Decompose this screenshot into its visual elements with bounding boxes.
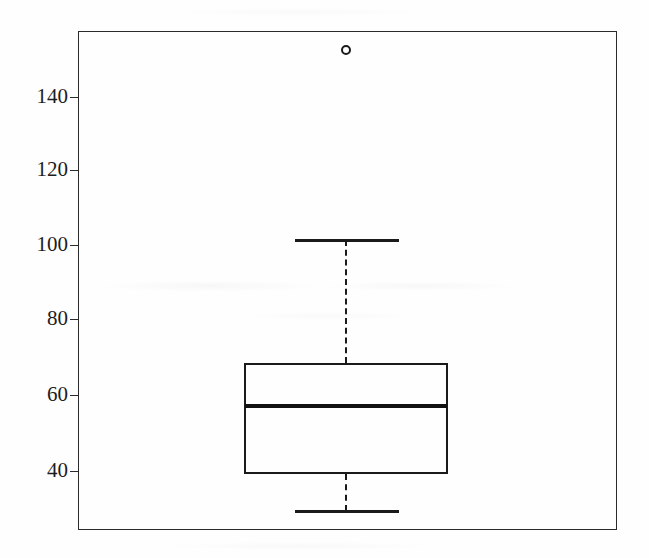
upper-whisker-cap bbox=[295, 239, 399, 242]
y-tick-mark-60 bbox=[70, 395, 78, 396]
lower-whisker-cap bbox=[295, 510, 399, 513]
median-line bbox=[245, 404, 447, 408]
y-tick-mark-40 bbox=[70, 471, 78, 472]
interquartile-box bbox=[244, 363, 448, 474]
y-tick-label-60: 60 bbox=[8, 384, 68, 405]
outlier-point bbox=[341, 45, 351, 55]
upper-whisker-line bbox=[345, 240, 347, 363]
y-tick-label-40: 40 bbox=[8, 460, 68, 481]
y-tick-mark-100 bbox=[70, 245, 78, 246]
y-tick-mark-120 bbox=[70, 170, 78, 171]
y-tick-label-140: 140 bbox=[8, 86, 68, 107]
box-plot-figure: 140 120 100 80 60 40 bbox=[0, 0, 649, 558]
lower-whisker-line bbox=[345, 474, 347, 511]
y-tick-mark-80 bbox=[70, 319, 78, 320]
y-tick-label-120: 120 bbox=[8, 159, 68, 180]
y-tick-label-80: 80 bbox=[8, 308, 68, 329]
y-tick-label-100: 100 bbox=[8, 234, 68, 255]
y-tick-mark-140 bbox=[70, 97, 78, 98]
